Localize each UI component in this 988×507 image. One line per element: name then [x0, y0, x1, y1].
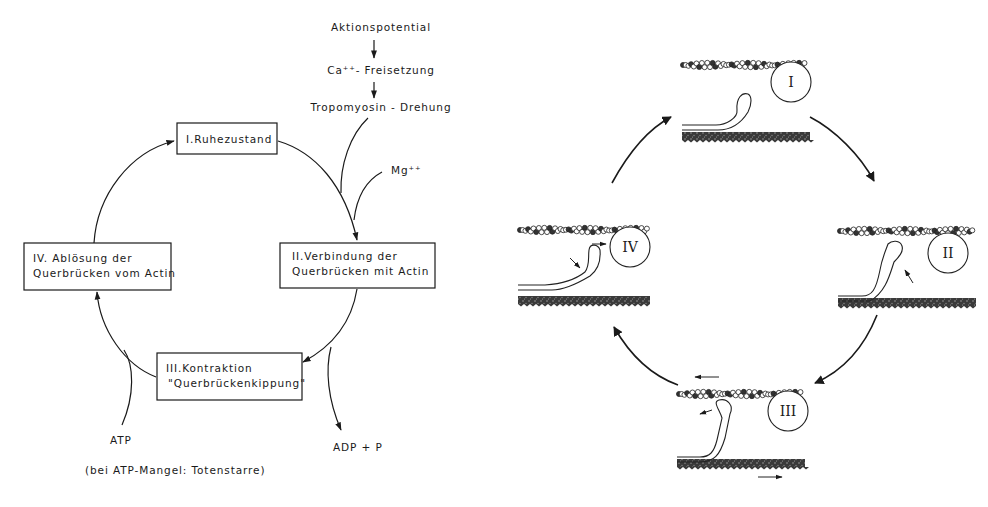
left-cycle: Aktionspotential Ca⁺⁺- Freisetzung Tropo… — [24, 21, 452, 476]
arc-III-to-IV — [97, 292, 156, 377]
motion-arrow — [570, 258, 580, 268]
motion-arrow — [905, 270, 913, 283]
label-tropomyosin-drehung: Tropomyosin - Drehung — [309, 101, 451, 113]
myosin-filament — [682, 132, 814, 143]
box-IV-line-1: IV. Ablösung der — [33, 252, 132, 264]
box-state-IV: IV. Ablösung der Querbrücken vom Actin — [24, 243, 176, 290]
myosin-filament — [838, 298, 976, 309]
state-numeral: III — [780, 403, 797, 419]
right-cycle: I II III IV — [518, 60, 977, 477]
label-mg: Mg⁺⁺ — [391, 164, 421, 176]
arrow-IV-to-I — [612, 117, 671, 183]
box-II-line-2: Querbrücken mit Actin — [292, 265, 429, 277]
box-III-line-2: "Querbrückenkippung" — [168, 377, 306, 389]
box-state-II: II.Verbindung der Querbrücken mit Actin — [280, 243, 435, 288]
arrow-I-to-II — [810, 117, 874, 181]
mg-influx-line — [354, 172, 382, 220]
box-II-line-1: II.Verbindung der — [292, 250, 398, 262]
panel-state-II: II — [838, 226, 977, 308]
cross-bridge — [838, 241, 902, 301]
label-adp-p: ADP + P — [333, 441, 383, 453]
tropomyosin-influx-line — [341, 118, 368, 193]
panel-state-I: I — [681, 60, 815, 142]
panel-state-IV: IV — [518, 225, 651, 306]
myosin-filament — [677, 459, 809, 470]
state-numeral: IV — [622, 239, 639, 255]
box-IV-line-2: Querbrücken vom Actin — [33, 267, 176, 279]
cross-bridge — [518, 245, 600, 290]
box-I-line-1: I.Ruhezustand — [186, 133, 272, 145]
myosin-filament — [518, 296, 650, 307]
label-ca-freisetzung: Ca⁺⁺- Freisetzung — [327, 64, 435, 76]
cross-bridge — [677, 400, 731, 462]
diagram-canvas: Aktionspotential Ca⁺⁺- Freisetzung Tropo… — [0, 0, 988, 507]
arc-I-to-II — [278, 141, 357, 240]
adp-efflux-arrow — [328, 347, 341, 430]
cross-bridge — [682, 94, 751, 130]
arrow-II-to-III — [815, 315, 877, 383]
arc-IV-to-I — [94, 141, 174, 243]
state-numeral: I — [788, 74, 794, 90]
box-III-line-1: III.Kontraktion — [166, 362, 253, 374]
label-atp: ATP — [110, 434, 132, 446]
box-state-III: III.Kontraktion "Querbrückenkippung" — [157, 353, 306, 400]
arrow-III-to-IV — [614, 327, 678, 385]
box-state-I: I.Ruhezustand — [177, 123, 277, 154]
state-numeral: II — [942, 245, 953, 261]
label-totenstarre-note: (bei ATP-Mangel: Totenstarre) — [85, 464, 265, 476]
motion-arrow — [700, 410, 712, 414]
panel-state-III: III — [677, 377, 810, 477]
label-aktionspotential: Aktionspotential — [331, 21, 431, 33]
